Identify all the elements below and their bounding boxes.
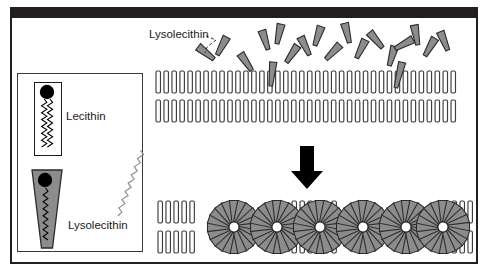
lecithin-symbol-frame	[34, 82, 62, 156]
figure-canvas: Lecithin Lysolecithin Lysolecithin	[0, 0, 488, 272]
frame-top-bar	[10, 7, 478, 18]
legend-label-lysolecithin: Lysolecithin	[68, 219, 128, 231]
legend-label-lecithin: Lecithin	[66, 110, 106, 122]
annotation-label-lysolecithin: Lysolecithin	[149, 28, 209, 40]
